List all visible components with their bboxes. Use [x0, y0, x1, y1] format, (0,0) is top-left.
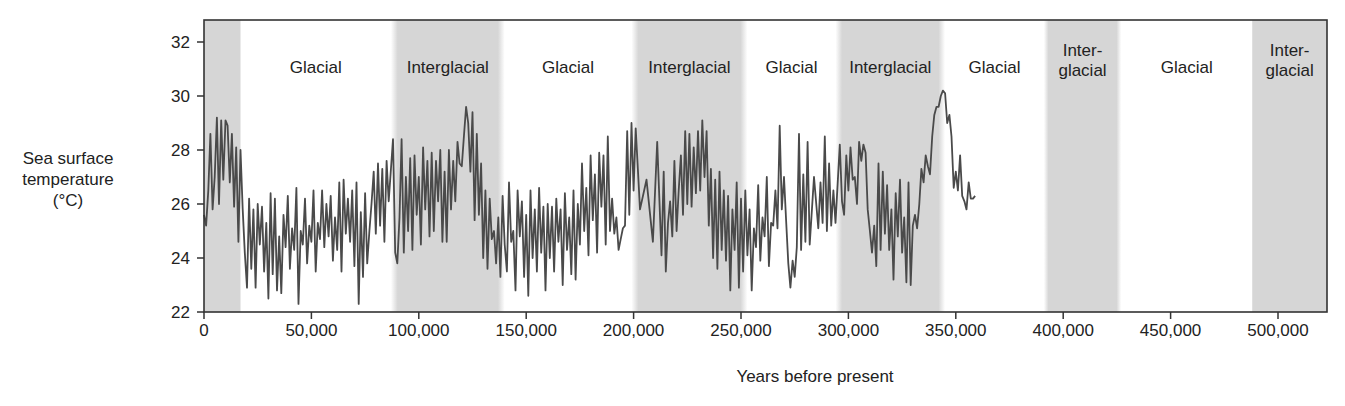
period-label-glacial: Glacial — [1161, 58, 1213, 77]
x-tick-label: 100,000 — [388, 321, 449, 340]
y-tick-label: 28 — [171, 141, 190, 160]
period-label-glacial: Glacial — [765, 58, 817, 77]
x-axis-label: Years before present — [640, 367, 990, 387]
x-tick-label: 50,000 — [285, 321, 337, 340]
y-tick-label: 22 — [171, 303, 190, 322]
x-tick-label: 500,000 — [1247, 321, 1308, 340]
x-axis: 050,000100,000150,000200,000250,000300,0… — [199, 312, 1308, 340]
period-label-interglacial: Interglacial — [407, 58, 489, 77]
period-label-glacial: Glacial — [968, 58, 1020, 77]
period-label-glacial: Glacial — [542, 58, 594, 77]
period-label-interglacial: Interglacial — [648, 58, 730, 77]
y-tick-label: 24 — [171, 249, 190, 268]
y-tick-label: 26 — [171, 195, 190, 214]
y-tick-label: 32 — [171, 33, 190, 52]
y-axis-label-line-3: (°C) — [8, 190, 128, 211]
sea-surface-temperature-chart: GlacialInterglacialGlacialInterglacialGl… — [0, 0, 1345, 406]
period-label-interglacial: Interglacial — [849, 58, 931, 77]
x-tick-label: 400,000 — [1032, 321, 1093, 340]
period-label-interglacial: Inter-glacial — [1266, 41, 1314, 80]
x-tick-label: 0 — [199, 321, 208, 340]
y-axis-label-line-1: Sea surface — [8, 148, 128, 169]
x-tick-label: 350,000 — [925, 321, 986, 340]
y-axis-label: Sea surface temperature (°C) — [8, 148, 128, 211]
y-axis-label-line-2: temperature — [8, 169, 128, 190]
y-tick-label: 30 — [171, 87, 190, 106]
period-label-glacial: Glacial — [290, 58, 342, 77]
x-tick-label: 450,000 — [1140, 321, 1201, 340]
x-tick-label: 200,000 — [603, 321, 664, 340]
x-tick-label: 250,000 — [710, 321, 771, 340]
x-tick-label: 300,000 — [818, 321, 879, 340]
period-label-interglacial: Inter-glacial — [1058, 41, 1106, 80]
y-axis: 222426283032 — [171, 33, 204, 322]
x-tick-label: 150,000 — [495, 321, 556, 340]
